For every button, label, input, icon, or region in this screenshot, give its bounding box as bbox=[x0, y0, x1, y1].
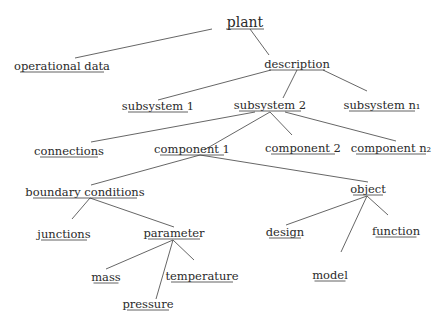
node-label: temperature bbox=[165, 269, 238, 283]
node-pressure: pressure bbox=[122, 297, 173, 311]
edge-object-function bbox=[367, 196, 388, 215]
node-plant: plant bbox=[226, 14, 264, 30]
edge-plant-operational_data bbox=[75, 29, 212, 58]
edge-plant-description bbox=[250, 29, 269, 55]
edge-description-subsystem_n1 bbox=[323, 70, 367, 91]
edge-boundary_conditions-parameter bbox=[90, 198, 174, 227]
node-parameter: parameter bbox=[143, 226, 205, 240]
node-subsystem-1: subsystem 1 bbox=[122, 99, 194, 113]
node-label: component 2 bbox=[265, 141, 341, 155]
node-connections: connections bbox=[34, 144, 104, 158]
edge-boundary_conditions-junctions bbox=[72, 198, 90, 219]
node-design: design bbox=[266, 225, 305, 239]
node-function: function bbox=[372, 224, 421, 238]
node-boundary-conditions: boundary conditions bbox=[25, 185, 144, 199]
node-label: design bbox=[266, 225, 305, 239]
edge-object-design bbox=[286, 196, 367, 225]
edge-subsystem_2-component_2 bbox=[270, 112, 292, 135]
node-temperature: temperature bbox=[165, 269, 238, 283]
node-label: component 1 bbox=[154, 142, 230, 156]
node-label: component n₂ bbox=[351, 141, 431, 155]
edge-description-subsystem_1 bbox=[158, 70, 271, 100]
node-component-1: component 1 bbox=[154, 142, 230, 156]
node-model: model bbox=[312, 268, 348, 282]
node-label: mass bbox=[91, 270, 121, 284]
edge-parameter-mass bbox=[106, 240, 173, 269]
tree-edges bbox=[72, 29, 396, 299]
node-junctions: junctions bbox=[35, 227, 90, 241]
node-object: object bbox=[350, 182, 386, 196]
edge-subsystem_2-component_n2 bbox=[285, 112, 396, 141]
node-label: pressure bbox=[122, 297, 173, 311]
tree-diagram: plantoperational datadescriptionsubsyste… bbox=[0, 0, 445, 330]
node-label: subsystem 1 bbox=[122, 99, 194, 113]
node-mass: mass bbox=[91, 270, 121, 284]
node-operational-data: operational data bbox=[14, 59, 110, 73]
tree-diagram-canvas: plantoperational datadescriptionsubsyste… bbox=[0, 0, 445, 330]
node-label: junctions bbox=[35, 227, 90, 241]
node-label: function bbox=[372, 224, 421, 238]
tree-nodes: plantoperational datadescriptionsubsyste… bbox=[14, 14, 431, 311]
edge-subsystem_2-connections bbox=[91, 112, 255, 142]
node-subsystem-n1: subsystem n₁ bbox=[344, 98, 421, 112]
node-label: plant bbox=[227, 14, 264, 30]
edge-object-model bbox=[341, 196, 367, 252]
node-label: operational data bbox=[14, 59, 110, 73]
node-component-2: component 2 bbox=[265, 141, 341, 155]
node-description: description bbox=[264, 57, 330, 71]
edge-parameter-temperature bbox=[173, 240, 194, 260]
node-label: connections bbox=[34, 144, 104, 158]
node-label: subsystem n₁ bbox=[344, 98, 421, 112]
edge-component_1-boundary_conditions bbox=[91, 155, 200, 185]
node-component-n2: component n₂ bbox=[351, 141, 431, 155]
edge-description-subsystem_2 bbox=[283, 70, 297, 98]
node-label: subsystem 2 bbox=[234, 98, 306, 112]
edge-component_1-object bbox=[200, 155, 368, 182]
node-label: parameter bbox=[143, 226, 205, 240]
node-label: description bbox=[264, 57, 330, 71]
node-subsystem-2: subsystem 2 bbox=[234, 98, 306, 112]
node-label: boundary conditions bbox=[25, 185, 144, 199]
node-label: model bbox=[312, 268, 348, 282]
node-label: object bbox=[350, 182, 386, 196]
